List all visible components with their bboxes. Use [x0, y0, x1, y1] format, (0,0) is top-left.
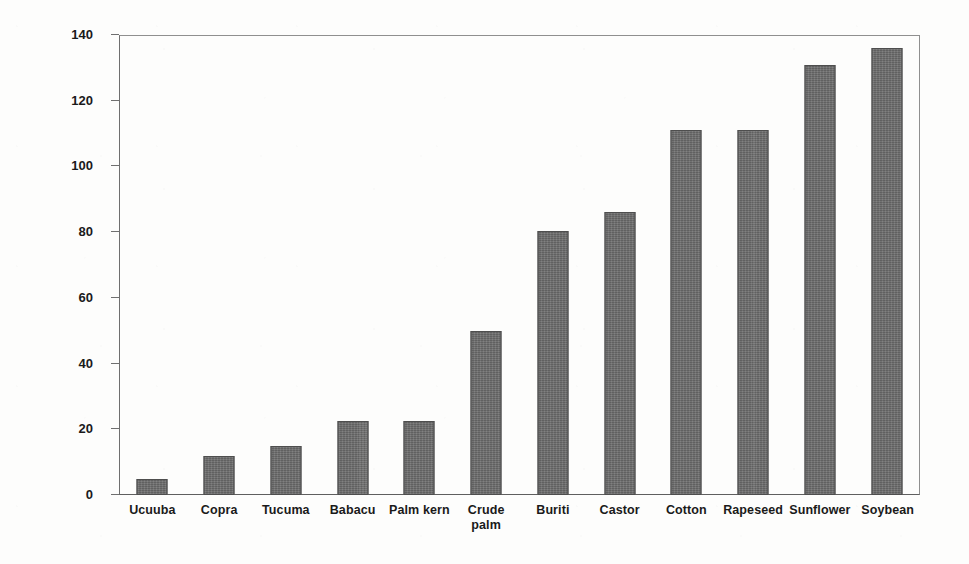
y-tick-label: 140	[71, 26, 93, 44]
x-label-babacu: Babacu	[319, 503, 386, 518]
bar-slot-babacu	[319, 35, 386, 495]
y-tick-140: 140	[0, 26, 119, 44]
x-label-line: Rapeseed	[718, 503, 789, 518]
bar-slot-palm-kern	[386, 35, 453, 495]
x-label-soybean: Soybean	[853, 503, 922, 518]
x-label-castor: Castor	[586, 503, 653, 518]
y-tick-mark	[111, 297, 119, 298]
y-tick-mark	[111, 165, 119, 166]
bar-slot-copra	[186, 35, 253, 495]
x-label-copra: Copra	[186, 503, 253, 518]
bar-slot-castor	[586, 35, 653, 495]
bar-slot-cotton	[653, 35, 720, 495]
bar-babacu[interactable]	[337, 421, 368, 495]
x-axis-label-group: Ucuuba Copra Tucuma Babacu Palm kern Cru…	[119, 503, 920, 561]
y-tick-label: 120	[71, 92, 93, 110]
bar-cotton[interactable]	[671, 130, 702, 495]
y-axis-tick-group: 0 20 40 60 80 100 120 140	[0, 0, 119, 564]
x-label-line: Babacu	[319, 503, 386, 518]
bar-slot-tucuma	[253, 35, 320, 495]
y-tick-80: 80	[0, 223, 119, 241]
bar-sunflower[interactable]	[804, 65, 835, 495]
y-tick-label: 20	[79, 420, 93, 438]
x-label-tucuma: Tucuma	[253, 503, 320, 518]
x-label-sunflower: Sunflower	[785, 503, 856, 518]
bar-ucuuba[interactable]	[137, 479, 168, 495]
y-tick-label: 40	[79, 355, 93, 373]
x-label-line: Castor	[586, 503, 653, 518]
bar-slot-soybean	[853, 35, 920, 495]
x-label-line: Copra	[186, 503, 253, 518]
bar-series-group	[119, 35, 920, 495]
bar-slot-buriti	[520, 35, 587, 495]
x-label-line: Tucuma	[253, 503, 320, 518]
x-label-buriti: Buriti	[520, 503, 587, 518]
y-tick-label: 60	[79, 289, 93, 307]
x-label-line: Ucuuba	[119, 503, 186, 518]
bar-slot-ucuuba	[119, 35, 186, 495]
x-label-line: Palm kern	[382, 503, 457, 518]
x-label-line: palm	[453, 518, 520, 533]
y-tick-label: 100	[71, 157, 93, 175]
x-label-line: Soybean	[853, 503, 922, 518]
x-label-crude-palm: Crudepalm	[453, 503, 520, 533]
x-label-line: Cotton	[653, 503, 720, 518]
bar-slot-rapeseed	[720, 35, 787, 495]
y-tick-0: 0	[0, 486, 119, 504]
bar-crude-palm[interactable]	[471, 331, 502, 495]
y-tick-mark	[111, 34, 119, 35]
y-tick-100: 100	[0, 157, 119, 175]
x-label-cotton: Cotton	[653, 503, 720, 518]
bar-chart-figure: Iodine Index 0 20 40 60 80 100 120	[0, 0, 969, 564]
x-label-line: Crude	[453, 503, 520, 518]
bar-slot-crude-palm	[453, 35, 520, 495]
x-label-line: Sunflower	[785, 503, 856, 518]
bar-buriti[interactable]	[537, 231, 568, 496]
bar-tucuma[interactable]	[270, 446, 301, 495]
x-label-palm-kern: Palm kern	[382, 503, 457, 518]
x-label-line: Buriti	[520, 503, 587, 518]
y-tick-mark	[111, 428, 119, 429]
bar-palm-kern[interactable]	[404, 421, 435, 495]
y-tick-60: 60	[0, 289, 119, 307]
bar-castor[interactable]	[604, 212, 635, 495]
y-tick-mark	[111, 363, 119, 364]
x-label-rapeseed: Rapeseed	[718, 503, 789, 518]
bar-rapeseed[interactable]	[738, 130, 769, 495]
x-label-ucuuba: Ucuuba	[119, 503, 186, 518]
y-tick-mark	[111, 100, 119, 101]
y-tick-120: 120	[0, 92, 119, 110]
bar-slot-sunflower	[787, 35, 854, 495]
bar-copra[interactable]	[204, 456, 235, 495]
y-tick-20: 20	[0, 420, 119, 438]
y-tick-label: 80	[79, 223, 93, 241]
y-tick-mark	[111, 494, 119, 495]
y-tick-mark	[111, 231, 119, 232]
y-tick-40: 40	[0, 355, 119, 373]
bar-soybean[interactable]	[871, 48, 902, 495]
y-tick-label: 0	[86, 486, 93, 504]
